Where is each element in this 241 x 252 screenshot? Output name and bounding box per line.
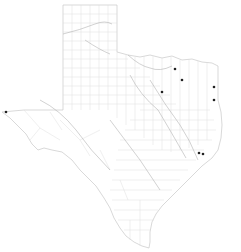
marker-point[interactable] [213, 86, 216, 89]
marker-point[interactable] [161, 91, 164, 94]
marker-point[interactable] [5, 111, 8, 114]
marker-point[interactable] [181, 79, 184, 82]
marker-point[interactable] [174, 68, 177, 71]
texas-county-map [0, 0, 241, 252]
marker-point[interactable] [213, 99, 216, 102]
marker-point[interactable] [202, 153, 205, 156]
marker-point[interactable] [198, 152, 201, 155]
